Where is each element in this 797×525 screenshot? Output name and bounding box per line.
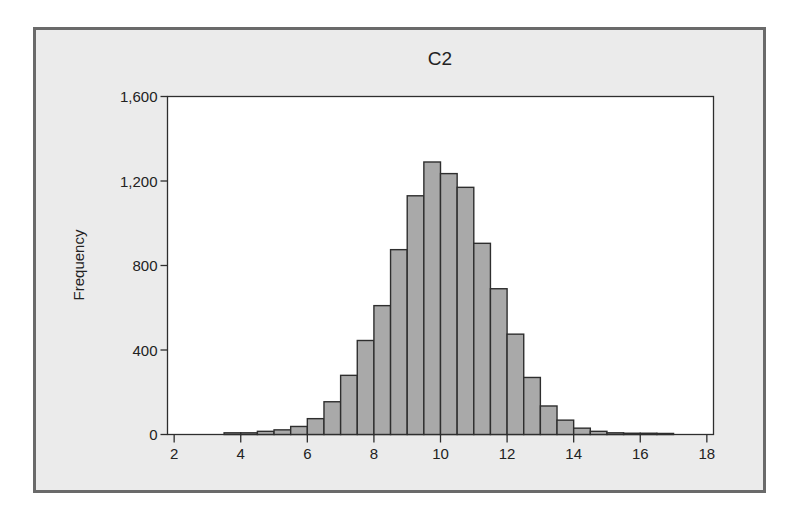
histogram-bar: [524, 377, 541, 434]
histogram-bar: [507, 334, 524, 434]
histogram-bar: [241, 433, 258, 435]
y-tick-label: 400: [132, 342, 157, 359]
histogram-bar: [324, 402, 341, 435]
histogram-bar: [224, 433, 241, 435]
x-tick-label: 14: [565, 445, 582, 462]
histogram-bar: [557, 420, 574, 434]
histogram-bar: [474, 243, 491, 434]
histogram-bar: [424, 162, 441, 435]
histogram-bar: [374, 306, 391, 435]
x-tick-label: 10: [432, 445, 449, 462]
y-tick-label: 0: [149, 426, 157, 443]
histogram-bar: [274, 430, 291, 435]
histogram-bar: [441, 174, 458, 435]
histogram-bar: [607, 433, 624, 435]
histogram-bar: [590, 431, 607, 434]
x-tick-label: 8: [370, 445, 378, 462]
y-tick-label: 1,600: [120, 88, 158, 105]
histogram-bar: [391, 250, 408, 435]
histogram-bar: [407, 196, 424, 435]
histogram-bar: [657, 433, 674, 434]
histogram-bar: [291, 426, 308, 434]
histogram-bar: [540, 406, 557, 435]
histogram-bar: [490, 289, 507, 435]
x-tick-label: 4: [237, 445, 245, 462]
chart-title: C2: [428, 48, 452, 69]
histogram-bar: [574, 428, 591, 434]
y-tick-label: 1,200: [120, 173, 158, 190]
histogram-bar: [357, 340, 374, 434]
x-tick-label: 18: [698, 445, 715, 462]
x-tick-label: 12: [499, 445, 516, 462]
x-tick-label: 2: [170, 445, 178, 462]
x-tick-label: 6: [303, 445, 311, 462]
histogram-bar: [624, 433, 641, 434]
histogram-bar: [640, 433, 657, 434]
histogram-bar: [307, 419, 324, 435]
histogram-bar: [257, 431, 274, 434]
y-tick-label: 800: [132, 257, 157, 274]
histogram-bar: [457, 187, 474, 434]
x-tick-label: 16: [632, 445, 649, 462]
histogram-bar: [341, 375, 358, 434]
y-axis-label: Frequency: [70, 229, 87, 300]
histogram-chart: C2 Frequency 04008001,2001,600 246810121…: [0, 0, 797, 525]
